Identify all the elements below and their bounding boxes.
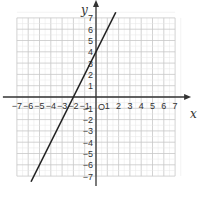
y-tick-label: 1 xyxy=(88,81,93,91)
x-tick-label: −3 xyxy=(57,101,67,111)
y-tick-label: 7 xyxy=(88,13,93,23)
x-tick-label: 1 xyxy=(105,101,110,111)
y-tick-label: −7 xyxy=(83,172,93,182)
y-tick-label: −4 xyxy=(83,138,93,148)
y-tick-label: −6 xyxy=(83,160,93,170)
x-tick-label: 7 xyxy=(173,101,178,111)
y-axis-label: y xyxy=(80,3,88,17)
x-axis-arrow-icon xyxy=(184,94,191,100)
y-tick-label: 5 xyxy=(88,36,93,46)
x-tick-label: −6 xyxy=(23,101,33,111)
x-tick-label: −7 xyxy=(12,101,22,111)
y-tick-label: −5 xyxy=(83,149,93,159)
grid-lines xyxy=(17,12,181,176)
x-tick-label: 2 xyxy=(116,101,121,111)
y-tick-label: 2 xyxy=(88,70,93,80)
x-tick-label: −5 xyxy=(34,101,44,111)
y-tick-label: −3 xyxy=(83,126,93,136)
coordinate-plane: −7−6−5−4−3−2−112345677654321−1−2−3−4−5−6… xyxy=(0,0,201,198)
axes xyxy=(3,0,191,186)
x-tick-label: 5 xyxy=(150,101,155,111)
y-axis-arrow-icon xyxy=(93,0,99,7)
y-tick-label: 4 xyxy=(88,47,93,57)
x-tick-label: −4 xyxy=(46,101,56,111)
y-tick-label: 6 xyxy=(88,25,93,35)
y-tick-label: −1 xyxy=(83,104,93,114)
y-tick-label: −2 xyxy=(83,115,93,125)
origin-label: O xyxy=(98,102,105,112)
x-axis-label: x xyxy=(190,107,197,121)
x-tick-label: 6 xyxy=(161,101,166,111)
x-tick-label: 3 xyxy=(127,101,132,111)
x-tick-label: 4 xyxy=(139,101,144,111)
